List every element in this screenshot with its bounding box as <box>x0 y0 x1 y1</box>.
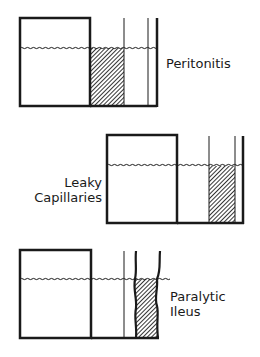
water-level-line <box>107 164 242 165</box>
label-line: Leaky <box>4 175 102 190</box>
bowel-wall-left <box>134 251 136 338</box>
intracellular-compartment <box>20 250 91 338</box>
label-line: Capillaries <box>4 190 102 205</box>
label-peritonitis: Peritonitis <box>166 56 231 71</box>
panel-peritonitis <box>20 18 158 107</box>
panel-leaky-capillaries <box>107 135 244 224</box>
label-line: Ileus <box>170 304 226 319</box>
intracellular-compartment <box>20 18 90 106</box>
hatched-fluid-region <box>90 48 124 106</box>
hatched-fluid-region <box>134 279 158 338</box>
label-paralytic-ileus: Paralytic Ileus <box>170 289 226 319</box>
label-leaky-capillaries: Leaky Capillaries <box>4 175 102 205</box>
intracellular-compartment <box>107 135 177 223</box>
hatched-fluid-region <box>209 166 235 223</box>
label-line: Paralytic <box>170 289 226 304</box>
third-space-fluid-diagram: Peritonitis Leaky Capillaries Paralytic … <box>0 0 260 357</box>
panel-paralytic-ileus <box>20 250 170 338</box>
bowel-wall-right <box>156 251 160 338</box>
label-line: Peritonitis <box>166 56 231 71</box>
